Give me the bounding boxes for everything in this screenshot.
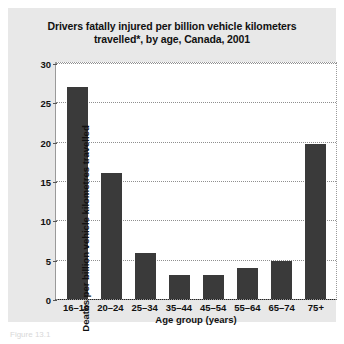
bar-slot (298, 63, 332, 299)
chart-title: Drivers fatally injured per billion vehi… (22, 20, 322, 46)
x-axis-tick-label: 35–44 (162, 302, 196, 313)
bar-slot (264, 63, 298, 299)
x-axis-tick-labels: 16–1920–2425–3435–4445–5455–6465–7475+ (55, 302, 337, 313)
x-axis-tick-label: 55–64 (230, 302, 264, 313)
bar-slot (230, 63, 264, 299)
y-axis-tick-label: 10 (40, 216, 51, 227)
figure-caption: Figure 13.1 (10, 330, 50, 339)
y-axis-tick-label: 15 (40, 177, 51, 188)
y-axis-tick-mark (53, 300, 57, 301)
x-axis-label: Age group (years) (55, 314, 337, 325)
chart-figure: Drivers fatally injured per billion vehi… (8, 8, 336, 322)
x-axis-tick-label: 20–24 (93, 302, 127, 313)
x-axis-tick-label: 45–54 (196, 302, 230, 313)
bar[interactable] (271, 261, 292, 299)
bar[interactable] (237, 268, 258, 299)
bar-slot (94, 63, 128, 299)
bar-slot (128, 63, 162, 299)
bar-slot (196, 63, 230, 299)
x-axis-tick-label: 65–74 (265, 302, 299, 313)
bar[interactable] (135, 253, 156, 299)
y-axis-tick-label: 20 (40, 137, 51, 148)
bar[interactable] (101, 173, 122, 299)
bar[interactable] (305, 144, 326, 299)
bar-slot (162, 63, 196, 299)
bar[interactable] (169, 275, 190, 299)
x-axis-tick-label: 75+ (299, 302, 333, 313)
x-axis-tick-label: 25–34 (128, 302, 162, 313)
y-axis-tick-label: 0 (46, 295, 51, 306)
bar[interactable] (203, 275, 224, 299)
bar-series (56, 63, 336, 299)
gridline: 0 (56, 299, 336, 300)
x-axis-tick-label: 16–19 (59, 302, 93, 313)
y-axis-tick-label: 5 (46, 255, 51, 266)
y-axis-tick-label: 25 (40, 98, 51, 109)
y-axis-tick-label: 30 (40, 59, 51, 70)
plot-area: 051015202530 Deaths per billion vehicle … (55, 62, 337, 300)
